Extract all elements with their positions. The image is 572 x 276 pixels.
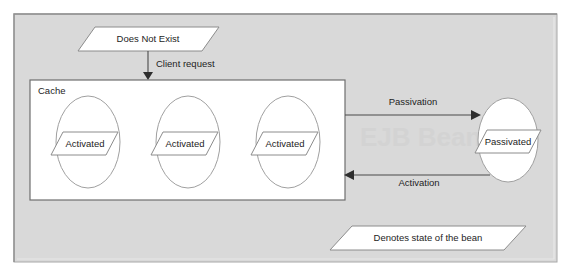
- legend-note: Denotes state of the bean: [330, 226, 526, 250]
- cache-panel-label: Cache: [38, 85, 65, 96]
- node-does-not-exist: Does Not Exist: [78, 27, 219, 51]
- activated-3-label: Activated: [265, 138, 304, 149]
- passivated-label: Passivated: [485, 136, 531, 147]
- diagram-page: EJB Bean Does Not Exist Client request C…: [0, 0, 572, 276]
- client-request-label: Client request: [156, 58, 215, 69]
- passivation-label: Passivation: [389, 96, 438, 107]
- does-not-exist-label: Does Not Exist: [117, 33, 180, 44]
- legend-label: Denotes state of the bean: [374, 232, 483, 243]
- background-watermark: EJB Bean: [360, 122, 481, 152]
- activated-2-label: Activated: [165, 138, 204, 149]
- activation-label: Activation: [398, 177, 439, 188]
- activated-1-label: Activated: [65, 138, 104, 149]
- bean-lifecycle-diagram: EJB Bean Does Not Exist Client request C…: [0, 0, 572, 276]
